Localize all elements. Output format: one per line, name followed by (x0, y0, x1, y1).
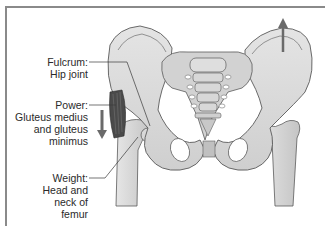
weight-label: Weight: Head and neck of femur (10, 172, 88, 220)
power-text-line-1: Gluteus medius (4, 111, 88, 123)
weight-title: Weight: (10, 172, 88, 184)
power-text-line-2: and gluteus (4, 123, 88, 135)
power-title: Power: (4, 99, 88, 111)
power-text-line-3: minimus (4, 135, 88, 147)
weight-text-line-2: neck of (10, 196, 88, 208)
gluteus-muscle (110, 90, 126, 138)
power-label: Power: Gluteus medius and gluteus minimu… (4, 99, 88, 147)
fulcrum-text: Hip joint (10, 68, 88, 80)
fulcrum-title: Fulcrum: (10, 56, 88, 68)
right-hip-bone (213, 28, 312, 170)
weight-text-line-3: femur (10, 208, 88, 220)
sacrum (162, 52, 253, 140)
fulcrum-label: Fulcrum: Hip joint (10, 56, 88, 80)
pubic-symphysis (203, 141, 215, 157)
power-arrow-down-icon (97, 110, 107, 139)
weight-text-line-1: Head and (10, 184, 88, 196)
